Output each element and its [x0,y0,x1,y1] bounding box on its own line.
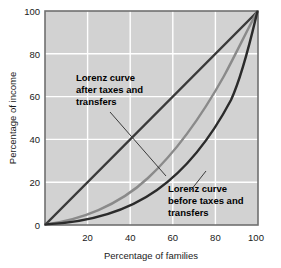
x-tick-60: 60 [168,232,179,243]
annotation-before-line3: transfers [168,207,209,218]
x-tick-40: 40 [125,232,136,243]
y-tick-80: 80 [29,49,40,60]
annotation-before-line2: before taxes and [168,195,244,206]
annotation-after-line3: transfers [76,96,117,107]
y-axis-title: Percentage of income [7,72,18,164]
x-axis-title: Percentage of families [104,250,198,261]
x-tick-20: 20 [82,232,93,243]
y-tick-20: 20 [29,177,40,188]
x-tick-labels: 20 40 60 80 100 [82,232,264,243]
y-tick-40: 40 [29,134,40,145]
x-tick-80: 80 [210,232,221,243]
lorenz-curve-figure: Lorenz curve after taxes and transfers L… [0,0,281,268]
y-tick-60: 60 [29,91,40,102]
y-tick-100: 100 [24,6,40,17]
annotation-after-line1: Lorenz curve [76,72,135,83]
y-tick-0: 0 [35,220,40,231]
annotation-after-line2: after taxes and [76,84,143,95]
x-tick-100: 100 [248,232,264,243]
chart-canvas: Lorenz curve after taxes and transfers L… [0,0,281,268]
y-tick-labels: 100 80 60 40 20 0 [24,6,40,231]
annotation-before-line1: Lorenz curve [168,183,227,194]
